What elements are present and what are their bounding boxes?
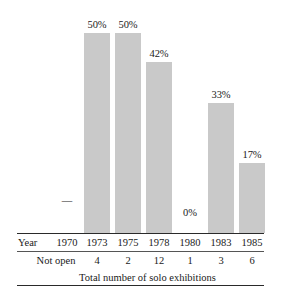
- count-cell-1983: 3: [206, 252, 236, 270]
- row-label-not-open: Not open: [28, 252, 84, 270]
- table-row-year: Year 1970 1973 1975 1978 1980 1983 1985: [0, 234, 281, 252]
- bar-column-1978: 42%: [144, 0, 174, 233]
- bar-column-1973: 50%: [82, 0, 112, 233]
- bar-1983: [208, 103, 234, 233]
- row-header-year: Year: [18, 234, 54, 252]
- bar-value-label-1978: 42%: [144, 48, 174, 60]
- bar-column-1975: 50%: [113, 0, 143, 233]
- year-cell-1983: 1983: [206, 234, 236, 252]
- year-cell-1970: 1970: [52, 234, 82, 252]
- year-cell-1978: 1978: [144, 234, 174, 252]
- year-cell-1973: 1973: [82, 234, 112, 252]
- bar-column-1970: —: [52, 0, 82, 233]
- bar-1978: [146, 62, 172, 233]
- count-cell-1975: 2: [113, 252, 143, 270]
- bar-column-1983: 33%: [206, 0, 236, 233]
- data-table: Year 1970 1973 1975 1978 1980 1983 1985 …: [0, 233, 281, 295]
- chart-axis-caption: Total number of solo exhibitions: [0, 269, 281, 287]
- table-row-counts: Not open 4 2 12 1 3 6: [0, 252, 281, 270]
- plot-area: — 50% 50% 42% 0% 33% 17%: [0, 0, 281, 233]
- table-row-caption: Total number of solo exhibitions: [0, 269, 281, 287]
- bar-value-label-1983: 33%: [206, 89, 236, 101]
- count-cell-1978: 12: [144, 252, 174, 270]
- bar-1985: [239, 163, 265, 233]
- bar-column-1980: 0%: [175, 0, 205, 233]
- count-cell-1985: 6: [237, 252, 267, 270]
- bar-value-label-1970: —: [52, 195, 82, 207]
- bar-value-label-1980: 0%: [175, 207, 205, 219]
- bar-value-label-1985: 17%: [237, 149, 267, 161]
- count-cell-1973: 4: [82, 252, 112, 270]
- year-cell-1985: 1985: [237, 234, 267, 252]
- year-cell-1975: 1975: [113, 234, 143, 252]
- bar-column-1985: 17%: [237, 0, 267, 233]
- count-cell-1980: 1: [175, 252, 205, 270]
- bar-1975: [115, 33, 141, 233]
- bar-value-label-1975: 50%: [113, 19, 143, 31]
- year-cell-1980: 1980: [175, 234, 205, 252]
- figure-bar-chart: — 50% 50% 42% 0% 33% 17%: [0, 0, 281, 295]
- bar-value-label-1973: 50%: [82, 19, 112, 31]
- bar-1973: [84, 33, 110, 233]
